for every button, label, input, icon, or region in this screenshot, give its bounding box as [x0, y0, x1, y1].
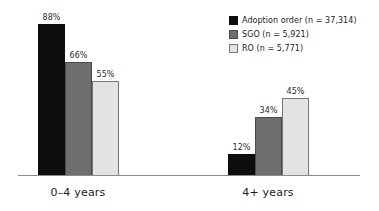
- legend-item-label: Adoption order (n = 37,314): [242, 16, 357, 25]
- bar-value-label: 45%: [286, 87, 304, 96]
- bar-adoption-0-4[interactable]: [38, 24, 65, 175]
- bar-sgo-4plus[interactable]: [255, 117, 282, 175]
- bar-value-label: 66%: [69, 51, 87, 60]
- legend-item-label: SGO (n = 5,921): [242, 30, 309, 39]
- legend-item-ro[interactable]: RO (n = 5,771): [229, 41, 357, 55]
- bar-column-ro-4plus: 45%: [282, 98, 309, 175]
- bar-ro-4plus[interactable]: [282, 98, 309, 175]
- legend-item-label: RO (n = 5,771): [242, 44, 303, 53]
- bar-value-label: 12%: [232, 143, 250, 152]
- bar-column-adoption-4plus: 12%: [228, 154, 255, 175]
- bar-adoption-4plus[interactable]: [228, 154, 255, 175]
- bar-column-adoption-0-4: 88%: [38, 24, 65, 175]
- bar-column-ro-0-4: 55%: [92, 81, 119, 175]
- legend-swatch-icon: [229, 16, 238, 25]
- legend-swatch-icon: [229, 30, 238, 39]
- legend-item-adoption-order[interactable]: Adoption order (n = 37,314): [229, 13, 357, 27]
- chart-legend: Adoption order (n = 37,314) SGO (n = 5,9…: [229, 13, 357, 55]
- bar-chart: 88% 66% 55% 12% 34% 45%: [0, 0, 379, 211]
- legend-swatch-icon: [229, 44, 238, 53]
- x-axis-line: [18, 175, 360, 176]
- bar-value-label: 55%: [96, 70, 114, 79]
- bar-value-label: 88%: [42, 13, 60, 22]
- bar-column-sgo-0-4: 66%: [65, 62, 92, 175]
- x-axis-label-4-plus-years: 4+ years: [220, 186, 316, 199]
- bar-sgo-0-4[interactable]: [65, 62, 92, 175]
- bar-group-0-4-years: 88% 66% 55%: [38, 24, 119, 175]
- x-axis-label-0-4-years: 0–4 years: [30, 186, 126, 199]
- bar-ro-0-4[interactable]: [92, 81, 119, 175]
- bar-column-sgo-4plus: 34%: [255, 117, 282, 175]
- bar-value-label: 34%: [259, 106, 277, 115]
- legend-item-sgo[interactable]: SGO (n = 5,921): [229, 27, 357, 41]
